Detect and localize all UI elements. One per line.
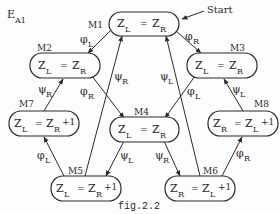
svg-text:R: R — [122, 77, 129, 86]
svg-text:L: L — [126, 131, 132, 140]
edge-label-m5-m1: ψ R — [114, 70, 129, 86]
svg-text:L: L — [203, 67, 209, 76]
svg-text:R: R — [96, 190, 103, 199]
edge-label-m1-m3: φ R — [185, 30, 200, 46]
svg-text:R: R — [163, 156, 170, 165]
svg-text:Z: Z — [152, 123, 160, 136]
edge-label-m5-m7: φ L — [37, 149, 51, 165]
edge-label-m7-m2: ψ R — [38, 83, 53, 99]
svg-text:Z: Z — [202, 182, 210, 195]
svg-text:A1: A1 — [14, 16, 26, 25]
edge-label-m6-m1: ψ L — [160, 70, 174, 86]
svg-text:L: L — [240, 90, 246, 99]
svg-text:φ: φ — [80, 33, 88, 46]
svg-text:=: = — [140, 19, 148, 29]
svg-text:Z: Z — [72, 59, 80, 72]
node-label: M1 — [88, 20, 103, 30]
svg-text:Z: Z — [117, 17, 125, 30]
svg-text:+1: +1 — [62, 117, 75, 127]
svg-text:Z: Z — [118, 123, 126, 136]
svg-text:=: = — [191, 184, 199, 194]
svg-text:L: L — [195, 92, 201, 101]
svg-text:+1: +1 — [104, 182, 117, 192]
node-m8: M8 Z R = Z L +1 — [208, 99, 278, 136]
edge-labels: φ L φ R ψ R ψ L φ R φ L ψ R ψ L — [37, 30, 251, 165]
svg-text:φ: φ — [37, 149, 45, 162]
svg-text:=: = — [234, 119, 242, 129]
svg-text:L: L — [45, 156, 51, 165]
edge-label-m6-m8: φ R — [236, 147, 251, 163]
node-label: M6 — [203, 166, 218, 176]
svg-text:R: R — [178, 190, 185, 199]
svg-text:R: R — [88, 92, 95, 101]
node-m1: M1 Z L = Z R — [88, 12, 179, 36]
svg-text:R: R — [237, 67, 244, 76]
node-m7: M7 Z L = Z R +1 — [9, 99, 79, 136]
svg-text:φ: φ — [187, 85, 195, 98]
svg-text:=: = — [60, 61, 68, 71]
diagram-title: E A1 — [7, 8, 26, 25]
node-m3: M3 Z L = Z R — [187, 43, 257, 78]
svg-text:L: L — [46, 67, 52, 76]
svg-text:Z: Z — [14, 117, 22, 130]
svg-text:φ: φ — [80, 85, 88, 98]
svg-text:Z: Z — [88, 182, 96, 195]
svg-text:R: R — [221, 125, 228, 134]
node-label: M2 — [37, 43, 52, 53]
svg-text:+1: +1 — [261, 117, 274, 127]
svg-text:E: E — [7, 8, 15, 21]
svg-text:=: = — [140, 125, 148, 135]
svg-text:Z: Z — [152, 17, 160, 30]
edge-label-m1-m2: φ L — [80, 33, 94, 49]
edge-label-m3-m4: φ L — [187, 85, 201, 101]
svg-text:L: L — [125, 25, 131, 34]
svg-text:L: L — [22, 125, 28, 134]
svg-text:L: L — [88, 40, 94, 49]
svg-text:Z: Z — [38, 59, 46, 72]
svg-text:=: = — [35, 119, 43, 129]
svg-text:R: R — [160, 131, 167, 140]
svg-text:L: L — [64, 190, 70, 199]
start-indicator: Start — [182, 4, 233, 19]
svg-text:Z: Z — [46, 117, 54, 130]
svg-text:L: L — [210, 190, 216, 199]
edge-label-m4-m6: ψ R — [155, 149, 170, 165]
svg-text:Z: Z — [170, 182, 178, 195]
edge-label-m2-m4: φ R — [80, 85, 95, 101]
node-label: M3 — [230, 43, 245, 53]
svg-text:Start: Start — [207, 4, 233, 15]
svg-text:R: R — [244, 154, 251, 163]
svg-text:R: R — [46, 90, 53, 99]
node-label: M4 — [134, 107, 149, 117]
svg-text:+1: +1 — [218, 182, 231, 192]
edge-label-m4-m5: ψ L — [120, 149, 134, 165]
svg-text:φ: φ — [185, 30, 193, 43]
node-label: M7 — [19, 99, 34, 109]
node-label: M5 — [68, 166, 83, 176]
node-label: M8 — [254, 99, 269, 109]
svg-text:L: L — [128, 156, 134, 165]
svg-text:Z: Z — [229, 59, 237, 72]
svg-text:L: L — [253, 125, 259, 134]
svg-text:=: = — [217, 61, 225, 71]
figure-caption: fig.2.2 — [118, 201, 160, 212]
svg-text:R: R — [160, 25, 167, 34]
start-arrow — [182, 11, 204, 19]
svg-text:Z: Z — [245, 117, 253, 130]
svg-text:Z: Z — [195, 59, 203, 72]
svg-text:φ: φ — [236, 147, 244, 160]
svg-text:=: = — [77, 184, 85, 194]
svg-text:R: R — [54, 125, 61, 134]
svg-text:Z: Z — [213, 117, 221, 130]
svg-text:L: L — [168, 77, 174, 86]
state-diagram: E A1 Start φ L — [0, 0, 280, 214]
svg-text:Z: Z — [56, 182, 64, 195]
svg-text:R: R — [193, 37, 200, 46]
svg-text:R: R — [80, 67, 87, 76]
